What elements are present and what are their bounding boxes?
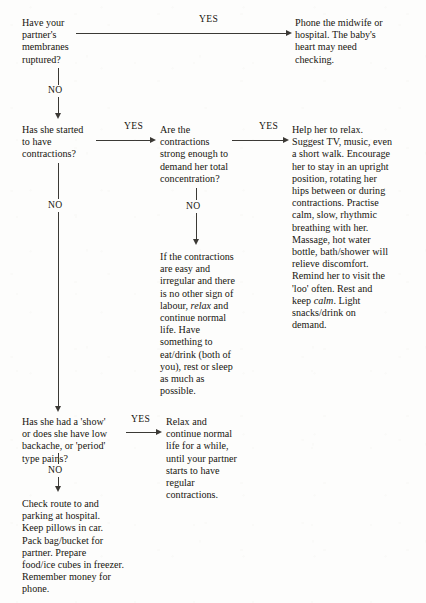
arrow-head-show-no [55,486,61,492]
node-question-contractions: Has she started to have contractions? [22,124,120,161]
edge-label-no-contractions: NO [48,199,63,210]
arrow-head-show-yes [156,429,162,435]
edge-label-no-strong: NO [186,200,201,211]
edge-line-membranes-no-upper [58,68,59,85]
node-answer-show-yes: Relax and continue normal life for a whi… [166,416,270,501]
edge-label-yes-strong: YES [259,120,278,131]
node-answer-strong-no: If the contractions are easy and irregul… [160,251,270,397]
node-answer-show-no: Check route to and parking at hospital. … [22,498,162,596]
edge-label-yes-contractions: YES [124,120,143,131]
edge-line-contractions-no-lower [58,212,59,408]
node-answer-strong-yes: Help her to relax. Suggest TV, music, ev… [292,124,423,331]
edge-line-strong-no-lower [196,213,197,241]
edge-line-strong-no-upper [196,188,197,200]
arrow-head-membranes-yes [286,30,292,36]
answer-strong-no-part2: and continue normal life. Have something… [160,300,233,396]
node-answer-membranes-yes: Phone the midwife or hospital. The baby'… [295,17,423,66]
answer-strong-no-emphasis: relax [191,300,211,311]
node-question-show: Has she had a 'show' or does she have lo… [22,416,148,465]
edge-label-no-show: NO [48,464,63,475]
flowchart-page: Have your partner's membranes ruptured? … [0,0,426,603]
arrow-head-strong-no [193,239,199,245]
node-question-strong: Are the contractions strong enough to de… [160,124,265,185]
arrow-head-contractions-no [55,406,61,412]
arrow-head-membranes-no [55,113,61,119]
edge-label-yes-show: YES [131,413,150,424]
edge-line-show-no-upper [58,453,59,464]
arrow-head-strong-yes [283,137,289,143]
answer-strong-yes-part1: Help her to relax. Suggest TV, music, ev… [292,124,392,306]
edge-line-strong-yes [232,140,285,141]
answer-strong-yes-emphasis: calm [314,295,334,306]
edge-label-yes-membranes: YES [199,13,218,24]
edge-line-membranes-yes [76,33,288,34]
edge-line-contractions-yes [96,140,152,141]
edge-line-show-yes [126,432,158,433]
node-question-membranes: Have your partner's membranes ruptured? [22,17,112,66]
arrow-head-contractions-yes [150,137,156,143]
edge-line-contractions-no-upper [58,163,59,199]
edge-label-no-membranes: NO [48,84,63,95]
